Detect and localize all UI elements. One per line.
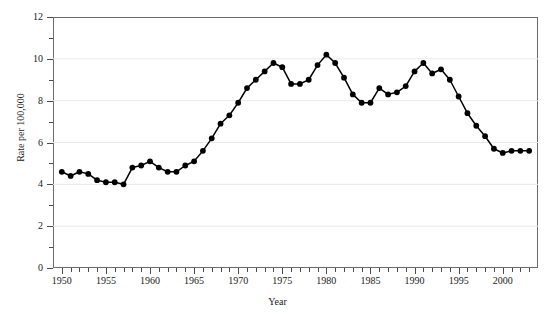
x-tick-label: 1975 [262, 276, 302, 286]
data-point [315, 62, 321, 68]
x-tick-minor [388, 268, 389, 272]
data-point [509, 148, 515, 154]
data-point [262, 68, 268, 74]
x-tick-minor [476, 268, 477, 272]
data-point [473, 123, 479, 129]
x-tick-minor [309, 268, 310, 272]
y-tick-label: 12 [3, 12, 43, 22]
x-tick-label: 1990 [395, 276, 435, 286]
data-point [244, 85, 250, 91]
data-point [500, 150, 506, 156]
y-tick-major [47, 17, 53, 18]
x-tick-minor [423, 268, 424, 272]
x-tick-minor [124, 268, 125, 272]
x-tick-minor [450, 268, 451, 272]
data-point [491, 146, 497, 152]
data-point [447, 77, 453, 83]
x-tick-minor [397, 268, 398, 272]
x-tick-major [62, 268, 63, 274]
x-tick-major [370, 268, 371, 274]
x-tick-minor [97, 268, 98, 272]
x-axis-title: Year [0, 296, 555, 307]
x-tick-minor [132, 268, 133, 272]
x-tick-major [150, 268, 151, 274]
data-point [129, 165, 135, 171]
data-point [412, 68, 418, 74]
data-point [376, 85, 382, 91]
data-point [165, 169, 171, 175]
data-point [138, 163, 144, 169]
data-point [526, 148, 532, 154]
data-point [420, 60, 426, 66]
y-tick-major [47, 101, 53, 102]
x-tick-minor [176, 268, 177, 272]
x-tick-minor [203, 268, 204, 272]
x-tick-minor [353, 268, 354, 272]
y-tick-minor [49, 163, 53, 164]
x-tick-minor [432, 268, 433, 272]
y-axis-title: Rate per 100,000 [15, 48, 26, 208]
x-tick-minor [291, 268, 292, 272]
x-tick-major [503, 268, 504, 274]
y-tick-major [47, 268, 53, 269]
y-tick-label: 2 [3, 221, 43, 231]
data-point [156, 165, 162, 171]
data-point [341, 75, 347, 81]
data-point [332, 60, 338, 66]
data-point [350, 91, 356, 97]
x-tick-minor [529, 268, 530, 272]
y-tick-major [47, 184, 53, 185]
data-point [147, 158, 153, 164]
x-tick-major [326, 268, 327, 274]
y-tick-major [47, 59, 53, 60]
x-tick-minor [494, 268, 495, 272]
x-tick-minor [256, 268, 257, 272]
x-tick-major [459, 268, 460, 274]
x-tick-minor [247, 268, 248, 272]
x-tick-minor [344, 268, 345, 272]
data-point [174, 169, 180, 175]
data-point [191, 158, 197, 164]
data-point [112, 179, 118, 185]
x-tick-label: 1995 [439, 276, 479, 286]
data-point [465, 110, 471, 116]
data-point [271, 60, 277, 66]
data-point [306, 77, 312, 83]
data-point [297, 81, 303, 87]
x-tick-label: 1980 [306, 276, 346, 286]
x-tick-minor [88, 268, 89, 272]
x-tick-minor [362, 268, 363, 272]
data-point [482, 133, 488, 139]
x-tick-minor [185, 268, 186, 272]
x-tick-major [282, 268, 283, 274]
x-tick-minor [159, 268, 160, 272]
y-tick-minor [49, 205, 53, 206]
data-point [121, 181, 127, 187]
x-tick-minor [485, 268, 486, 272]
data-point [253, 77, 259, 83]
x-tick-label: 2000 [483, 276, 523, 286]
chart-plot-area [53, 17, 538, 268]
data-point [85, 171, 91, 177]
data-point [288, 81, 294, 87]
y-tick-minor [49, 122, 53, 123]
data-point [517, 148, 523, 154]
data-point [103, 179, 109, 185]
series-markers [59, 52, 532, 187]
data-point [368, 100, 374, 106]
data-point [359, 100, 365, 106]
y-tick-major [47, 226, 53, 227]
x-tick-minor [141, 268, 142, 272]
x-tick-minor [379, 268, 380, 272]
x-tick-minor [300, 268, 301, 272]
data-point [182, 163, 188, 169]
y-tick-minor [49, 38, 53, 39]
data-point [68, 173, 74, 179]
data-point [403, 83, 409, 89]
data-point [429, 71, 435, 77]
data-point [385, 91, 391, 97]
x-tick-minor [335, 268, 336, 272]
x-tick-minor [512, 268, 513, 272]
y-tick-label: 0 [3, 263, 43, 273]
x-tick-minor [318, 268, 319, 272]
